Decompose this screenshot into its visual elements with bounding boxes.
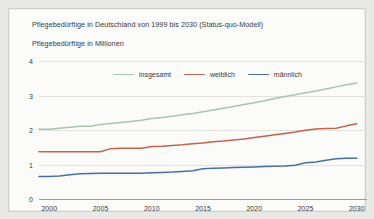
x-tick-label-2020: 2020 [234,205,274,212]
chart-subtitle: Pflegebedürftige in Millionen [32,39,124,48]
series-line-männlich [39,158,357,176]
y-tick-label-2: 2 [13,127,33,134]
chart-card: Pflegebedürftige in Deutschland von 1999… [8,8,366,212]
series-line-weiblich [39,124,357,152]
x-tick-label-2015: 2015 [183,205,223,212]
y-tick-label-1: 1 [13,161,33,168]
plot-area [39,61,367,199]
series-lines [39,61,367,199]
chart-title: Pflegebedürftige in Deutschland von 1999… [32,20,263,29]
series-line-insgesamt [39,83,357,129]
x-tick-label-2000: 2000 [29,205,69,212]
x-axis-line [39,199,367,200]
plot-container: 01234 2000200520102015202020252030 [31,53,367,199]
x-tick-label-2030: 2030 [337,205,374,212]
x-tick-label-2005: 2005 [81,205,121,212]
x-tick-label-2025: 2025 [286,205,326,212]
y-tick-label-3: 3 [13,92,33,99]
y-tick-label-4: 4 [13,58,33,65]
x-tick-label-2010: 2010 [132,205,172,212]
y-tick-label-0: 0 [13,196,33,203]
